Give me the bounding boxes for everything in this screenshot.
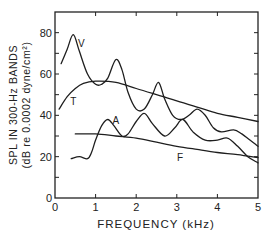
curve-t	[59, 81, 258, 121]
x-axis-title: FREQUENCY (kHz)	[97, 218, 215, 230]
x-tick-label: 4	[214, 201, 220, 213]
curve-f	[75, 134, 258, 158]
series-label-a: A	[113, 115, 120, 126]
series-label-v: V	[78, 38, 85, 49]
y-tick-label: 40	[40, 109, 52, 121]
x-tick-label: 0	[52, 201, 58, 213]
y-tick-label: 80	[40, 27, 52, 39]
x-tick-label: 1	[93, 201, 99, 213]
x-tick-label: 5	[255, 201, 261, 213]
curve-a	[71, 113, 258, 163]
series-label-f: F	[177, 152, 183, 163]
curve-v	[61, 35, 258, 147]
plot-frame	[55, 12, 258, 198]
data-series	[59, 35, 258, 163]
y-tick-label: 0	[46, 192, 52, 204]
series-label-t: T	[70, 96, 76, 107]
y-axis-units: (dB re 0.0002 dyne/cm²)	[20, 41, 32, 168]
x-tick-label: 3	[174, 201, 180, 213]
x-tick-label: 2	[133, 201, 139, 213]
y-tick-label: 20	[40, 151, 52, 163]
y-axis-title: SPL IN 300-Hz BANDS	[7, 45, 19, 165]
spl-frequency-chart: 012345 020406080 VTAF FREQUENCY (kHz) SP…	[0, 0, 271, 234]
y-tick-label: 60	[40, 68, 52, 80]
